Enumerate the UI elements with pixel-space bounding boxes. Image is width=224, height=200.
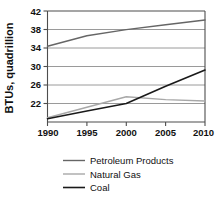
x-tick-label-1990: 1990 bbox=[37, 127, 58, 138]
x-tick-label-1995: 1995 bbox=[76, 127, 98, 138]
y-tick-label-26: 26 bbox=[30, 79, 41, 90]
y-tick-label-38: 38 bbox=[30, 24, 41, 35]
y-tick-label-42: 42 bbox=[30, 6, 41, 17]
y-tick-label-30: 30 bbox=[30, 61, 41, 72]
y-axis-label: BTUs, quadrillion bbox=[3, 22, 15, 113]
y-tick-label-34: 34 bbox=[30, 42, 41, 53]
x-tick-label-2005: 2005 bbox=[155, 127, 177, 138]
legend-label-petroleum-products: Petroleum Products bbox=[90, 155, 174, 166]
chart-svg: BTUs, quadrillion 22 bbox=[0, 0, 224, 200]
line-chart: BTUs, quadrillion 22 bbox=[0, 0, 224, 200]
x-tick-label-2000: 2000 bbox=[116, 127, 137, 138]
y-axis-label-text: BTUs, quadrillion bbox=[3, 22, 15, 113]
y-tick-label-22: 22 bbox=[30, 98, 41, 109]
x-tick-label-2010: 2010 bbox=[193, 127, 214, 138]
legend-label-coal: Coal bbox=[90, 182, 110, 193]
legend-label-natural-gas: Natural Gas bbox=[90, 169, 141, 180]
